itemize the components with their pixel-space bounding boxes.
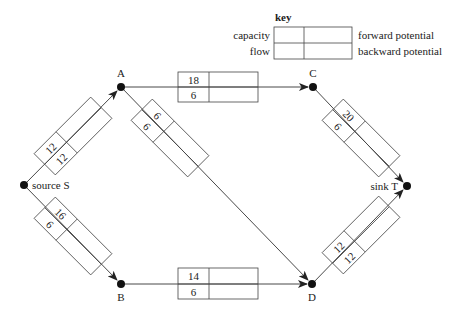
edge-box-a-c: 18 6 [178,72,258,102]
flow-c-t: 6 [332,120,345,133]
node-t-label: sink T [370,180,398,192]
edge-box-a-d: 6 6 [131,99,209,177]
flow-a-c: 6 [191,89,197,101]
edge-box-b-d: 14 6 [178,268,258,299]
node-t [403,182,411,190]
flow-s-b: 6 [44,218,57,231]
node-s [20,181,28,189]
node-b [117,280,125,288]
flow-b-d: 6 [191,286,197,298]
capacity-a-c: 18 [188,74,200,86]
flow-a-d: 6 [141,120,154,133]
edge-box-s-b: 16 6 [34,197,112,275]
edge-box-d-t: 12 12 [322,196,400,274]
node-s-label: source S [32,179,70,191]
node-d [308,280,316,288]
node-d-label: D [308,291,316,303]
key-legend: key capacity flow forward potential back… [233,11,442,59]
key-flow-label: flow [250,45,270,57]
capacity-b-d: 14 [188,270,200,282]
node-a [117,83,125,91]
key-forward-potential-label: forward potential [358,29,434,41]
edge-s-b [24,185,117,280]
node-a-label: A [117,67,125,79]
network-flow-diagram: key capacity flow forward potential back… [0,0,452,323]
edge-box-s-a: 12 12 [34,97,112,175]
node-c [309,83,317,91]
edge-a-d [121,87,308,280]
key-capacity-label: capacity [233,29,270,41]
key-title: key [275,11,292,23]
key-backward-potential-label: backward potential [358,45,442,57]
node-b-label: B [117,291,124,303]
edge-d-t [312,190,403,284]
edge-box-c-t: 20 6 [322,99,400,177]
node-c-label: C [309,67,316,79]
